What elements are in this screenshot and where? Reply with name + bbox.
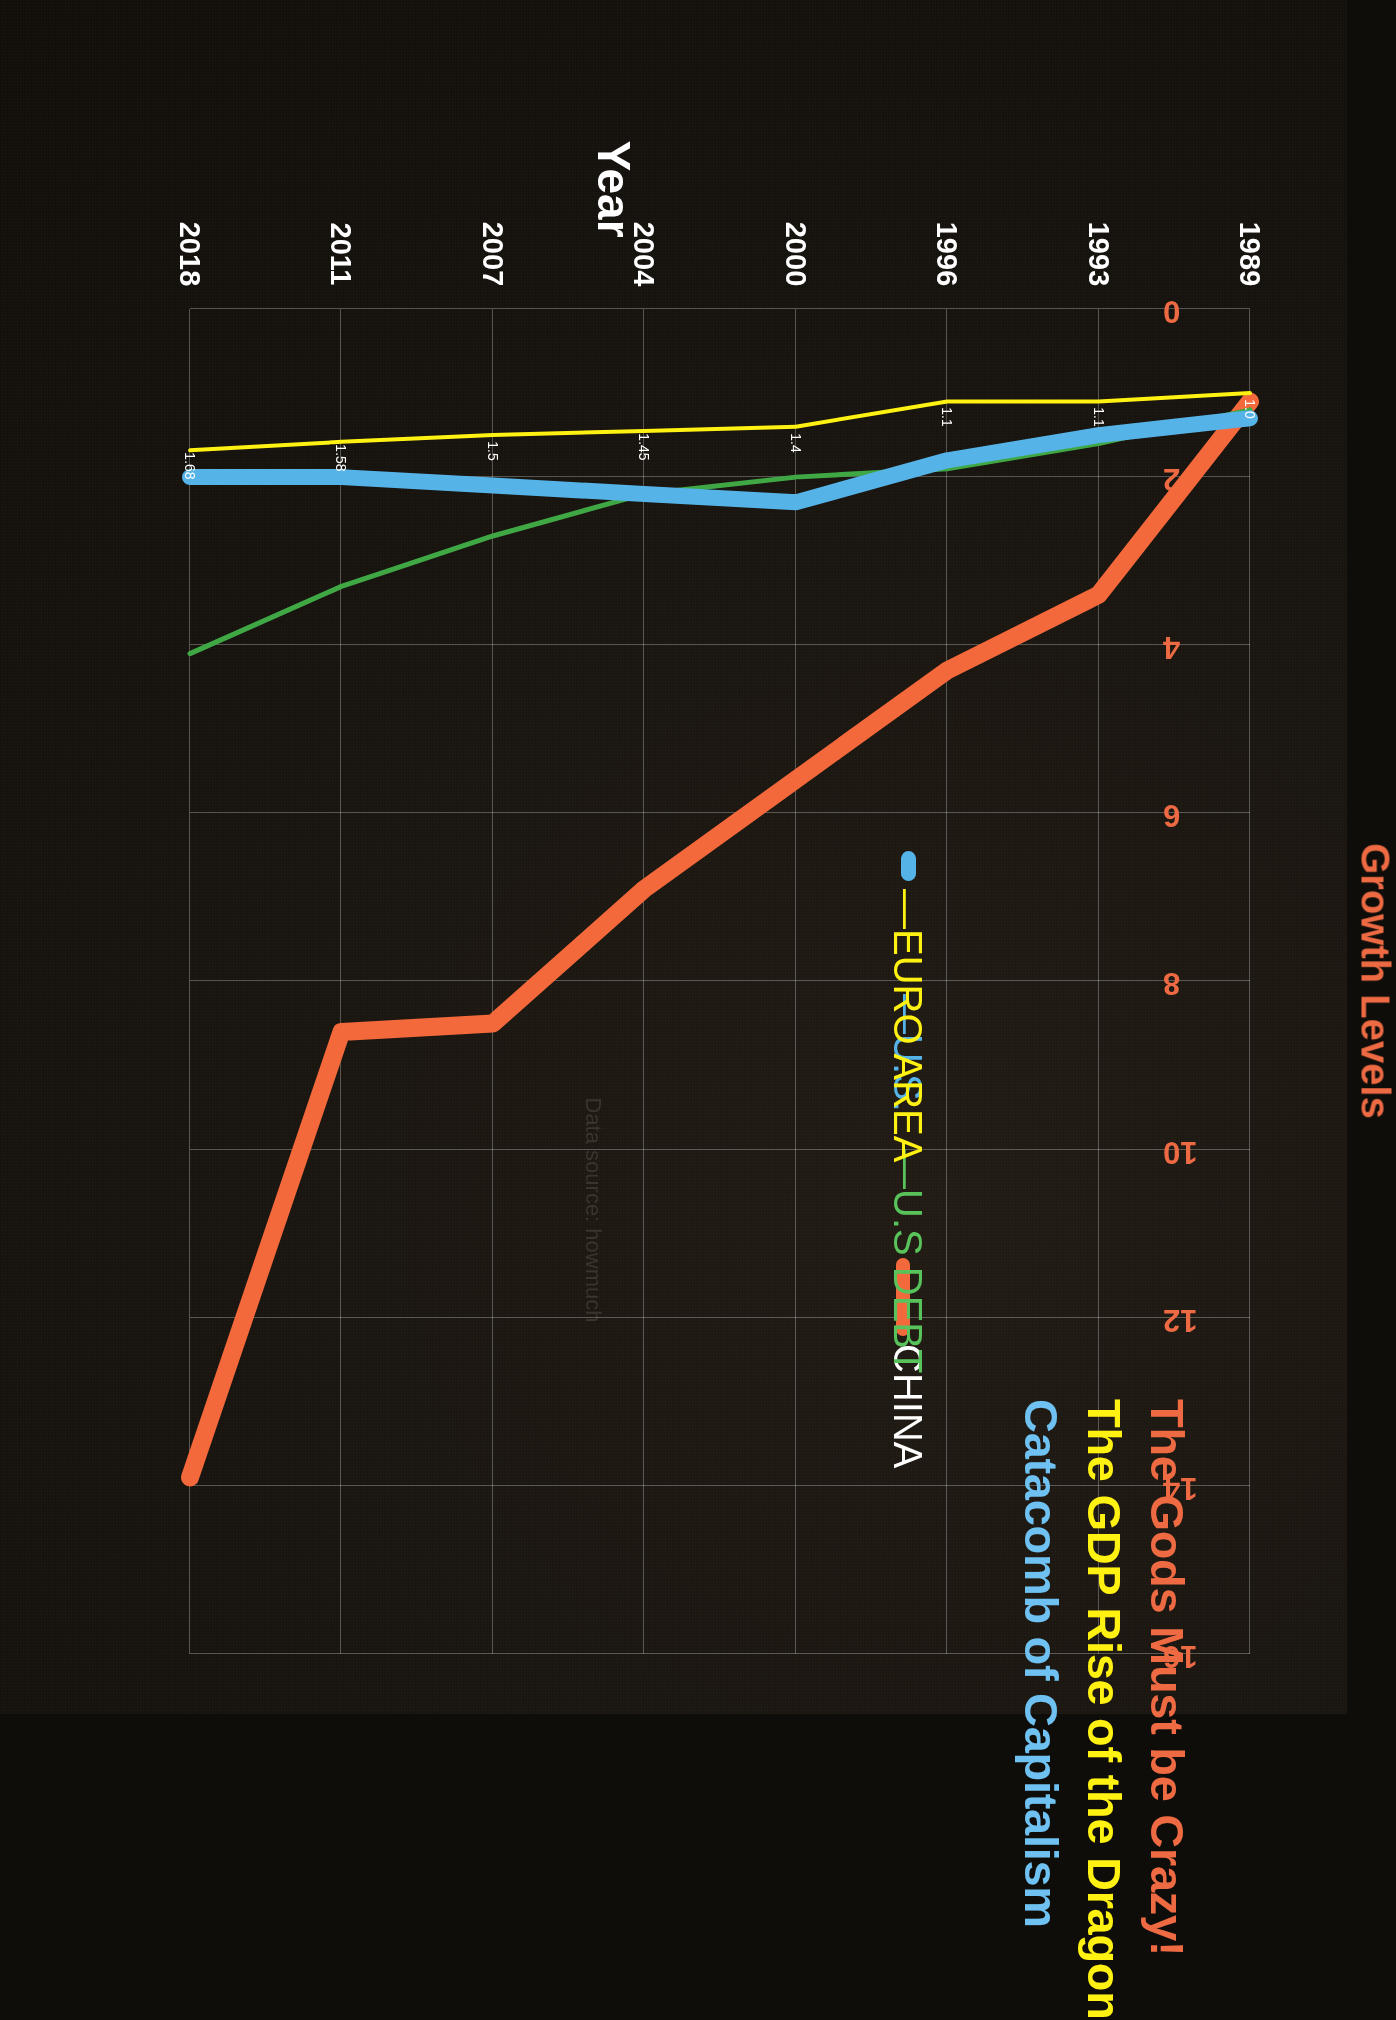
data-label: 1.1: [1091, 408, 1107, 427]
data-label: 1.1: [939, 408, 955, 427]
series-line-u-s: [190, 418, 1250, 502]
data-label: 1.4: [788, 433, 804, 452]
data-label: 1.68: [182, 453, 198, 480]
data-label: 1.58: [333, 444, 349, 471]
series-line-u-s-debt: [190, 410, 1250, 654]
y-axis-title: Growth Levels: [1353, 844, 1396, 1120]
series-line-china: [190, 401, 1250, 1477]
data-label: 1.0: [1242, 399, 1258, 418]
data-label: 1.5: [485, 441, 501, 460]
data-label: 1.45: [636, 433, 652, 460]
